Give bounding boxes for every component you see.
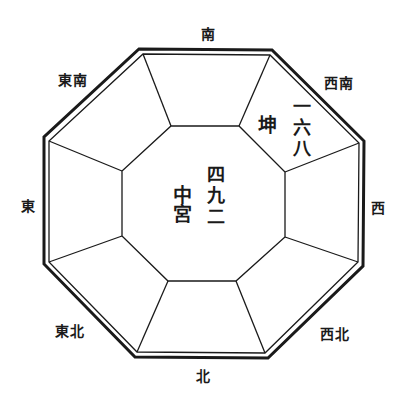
center-palace-label: 中宮 [171,185,190,223]
southwest-numbers: 一六八 [291,97,309,160]
direction-east: 東 [21,199,36,213]
octagon-diagram [0,0,405,406]
direction-west: 西 [371,201,386,215]
direction-southwest: 西南 [324,76,354,90]
direction-northeast: 東北 [55,324,85,338]
direction-south: 南 [201,27,216,41]
direction-north: 北 [196,369,211,383]
trigram-kun-label: 坤 [258,116,277,135]
direction-southeast: 東南 [58,73,88,87]
center-numbers: 四九二 [205,165,223,228]
direction-northwest: 西北 [320,327,350,341]
